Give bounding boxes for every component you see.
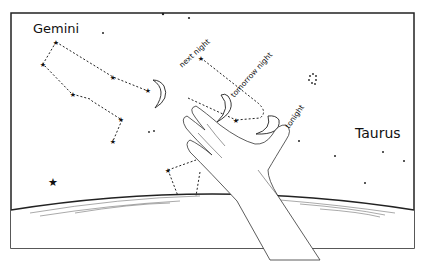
svg-text:★: ★ <box>198 55 204 63</box>
comic-panel: ★ ★ ★ ★ ★ ★ ★ ★ ★ ★ <box>0 0 422 261</box>
svg-text:★: ★ <box>110 74 116 82</box>
svg-text:★: ★ <box>165 167 171 175</box>
svg-text:★: ★ <box>145 87 151 95</box>
bright-star-icon: ★ <box>48 176 58 189</box>
svg-text:★: ★ <box>118 116 124 124</box>
svg-text:★: ★ <box>40 61 46 69</box>
svg-text:★: ★ <box>110 138 116 146</box>
svg-text:★: ★ <box>53 39 59 47</box>
svg-text:★: ★ <box>233 117 239 125</box>
taurus-label: Taurus <box>354 125 401 141</box>
gemini-label: Gemini <box>33 21 79 36</box>
svg-text:★: ★ <box>70 91 76 99</box>
